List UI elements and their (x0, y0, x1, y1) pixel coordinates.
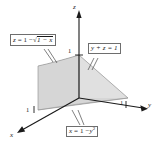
callout-x-equals-1-minus-y-squared: x = 1 −y2 (66, 126, 98, 137)
axis-label-z: z (73, 4, 76, 11)
callout-z-equals-1-minus-sqrt-1-minus-x: z = 1 −√1 − x (10, 34, 56, 46)
tick-label-y-1: 1 (120, 100, 123, 107)
axis-label-y: y (148, 102, 151, 109)
axis-y-arrow (140, 105, 148, 111)
leader-line-x-parabola (72, 110, 84, 125)
axis-label-x: x (10, 132, 13, 139)
callout-x-par-lhs: x (69, 127, 72, 135)
callout-z-curve-operator: = 1 − (18, 36, 33, 44)
axis-z-arrow (76, 10, 81, 18)
callout-z-curve-lhs: z (13, 36, 16, 44)
callout-y-plus-z-equals-1: y + z = 1 (88, 43, 121, 54)
callout-z-curve-radicand: 1 − x (37, 36, 53, 44)
tick-label-z-1: 1 (68, 48, 71, 55)
axis-x-arrow (17, 126, 25, 133)
leader-line-z-curve (44, 49, 57, 63)
diagram-canvas (0, 0, 158, 146)
callout-x-par-operator: = 1 − (74, 127, 89, 135)
callout-yz-text: y + z = 1 (91, 45, 118, 52)
callout-x-par-exponent: 2 (93, 126, 96, 131)
solid-region-3d-diagram: z = 1 −√1 − x y + z = 1 x = 1 −y2 z y x … (0, 0, 158, 146)
tick-label-x-1: 1 (26, 107, 29, 114)
